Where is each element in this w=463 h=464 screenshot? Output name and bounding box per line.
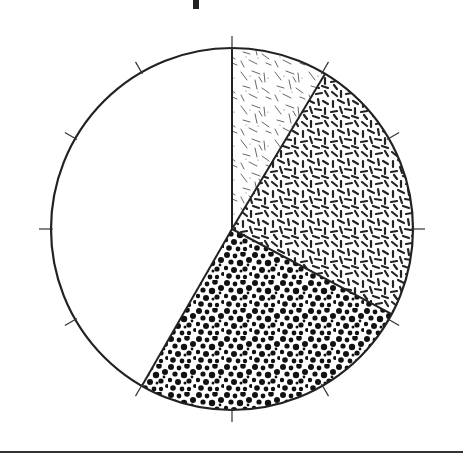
pie-slices: [51, 48, 413, 410]
tick-mark: [136, 384, 143, 396]
tick-mark: [387, 133, 399, 140]
horizontal-rule: [0, 451, 463, 453]
tick-mark: [322, 384, 329, 396]
tick-mark: [322, 62, 329, 74]
tick-mark: [65, 319, 77, 326]
tick-mark: [387, 319, 399, 326]
tick-mark: [136, 62, 143, 74]
pie-chart: [0, 0, 463, 464]
tick-mark: [65, 133, 77, 140]
